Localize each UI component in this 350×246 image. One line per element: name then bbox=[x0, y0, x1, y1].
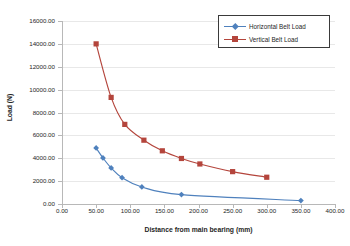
y-tick bbox=[58, 67, 62, 68]
legend-marker-horizontal-belt-load bbox=[224, 22, 246, 31]
legend-label-vertical-belt-load: Vertical Belt Load bbox=[249, 36, 298, 43]
gridline-y bbox=[62, 90, 335, 91]
gridline-y bbox=[62, 135, 335, 136]
legend-marker-vertical-belt-load bbox=[224, 35, 246, 44]
gridline-y bbox=[62, 158, 335, 159]
y-axis-line bbox=[62, 21, 63, 205]
chart-legend: Horizontal Belt Load Vertical Belt Load bbox=[218, 15, 330, 48]
legend-item-vertical-belt-load[interactable]: Vertical Belt Load bbox=[224, 33, 324, 45]
y-tick bbox=[58, 181, 62, 182]
y-tick bbox=[58, 44, 62, 45]
legend-item-horizontal-belt-load[interactable]: Horizontal Belt Load bbox=[224, 20, 324, 32]
y-tick-label: 0.00 bbox=[0, 201, 55, 207]
gridline-y bbox=[62, 113, 335, 114]
legend-label-horizontal-belt-load: Horizontal Belt Load bbox=[249, 23, 306, 30]
chart-container: 0.002000.004000.006000.008000.0010000.00… bbox=[0, 0, 350, 246]
y-tick-label: 12000.00 bbox=[0, 64, 55, 70]
x-axis-title: Distance from main bearing (mm) bbox=[62, 226, 335, 233]
x-tick-label: 400.00 bbox=[313, 208, 350, 214]
y-tick-label: 16000.00 bbox=[0, 18, 55, 24]
gridline-y bbox=[62, 181, 335, 182]
y-tick bbox=[58, 135, 62, 136]
y-axis-title: Load (N) bbox=[6, 78, 13, 138]
y-tick-label: 14000.00 bbox=[0, 41, 55, 47]
y-tick bbox=[58, 21, 62, 22]
plot-area bbox=[62, 21, 335, 204]
gridline-y bbox=[62, 67, 335, 68]
y-tick bbox=[58, 90, 62, 91]
y-tick bbox=[58, 158, 62, 159]
y-tick-label: 4000.00 bbox=[0, 155, 55, 161]
y-tick bbox=[58, 113, 62, 114]
y-tick-label: 2000.00 bbox=[0, 178, 55, 184]
